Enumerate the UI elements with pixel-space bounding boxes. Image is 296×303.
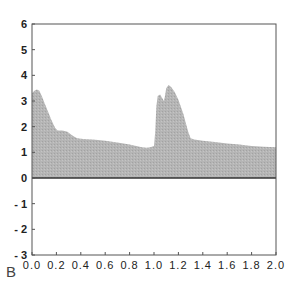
y-tick-label: 1 [21, 146, 27, 158]
x-tick-label: 0.6 [96, 259, 114, 271]
x-tick-label: 1.2 [169, 259, 187, 271]
x-tick-label: 1.8 [242, 259, 260, 271]
panel-label: B [6, 263, 16, 280]
x-tick-label: 1.4 [194, 259, 212, 271]
x-tick-label: 0.4 [72, 259, 90, 271]
y-tick-label: 3 [21, 95, 27, 107]
y-tick-label: 6 [21, 18, 27, 30]
y-tick-label: 4 [21, 69, 28, 81]
y-tick-label: - 2 [14, 223, 27, 235]
x-tick-label: 1.0 [145, 259, 163, 271]
y-tick-label: 5 [21, 44, 27, 56]
x-tick-label: 0.2 [47, 259, 65, 271]
x-tick-label: 0.8 [120, 259, 138, 271]
x-tick-label: 2.0 [267, 259, 285, 271]
x-tick-label: 0.0 [23, 259, 41, 271]
area-series [32, 85, 276, 178]
y-tick-label: 2 [21, 121, 27, 133]
y-tick-label: 0 [21, 172, 27, 184]
area-fill [32, 85, 276, 178]
area-chart: 6543210- 1- 2- 3 0.00.20.40.60.81.01.21.… [0, 0, 296, 303]
x-tick-label: 1.6 [218, 259, 236, 271]
y-tick-label: - 1 [14, 198, 27, 210]
